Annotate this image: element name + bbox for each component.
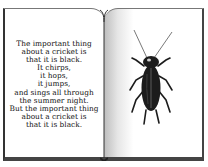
cricket-icon	[128, 28, 176, 132]
book-spine	[100, 6, 108, 161]
poem-text: The important thing about a cricket is t…	[8, 40, 100, 129]
open-book: The important thing about a cricket is t…	[0, 0, 208, 167]
poem-line: that it is black.	[8, 121, 100, 129]
